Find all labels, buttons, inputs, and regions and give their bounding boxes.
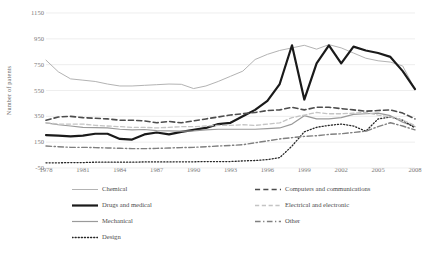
- legend-swatch-icon: [72, 234, 98, 241]
- legend-label: Electrical and electronic: [285, 202, 349, 209]
- legend-item[interactable]: Design: [72, 234, 121, 241]
- legend-swatch-icon: [72, 186, 98, 193]
- legend-item[interactable]: Computers and communications: [255, 186, 370, 193]
- legend-label: Drugs and medical: [102, 202, 152, 209]
- legend-swatch-icon: [72, 218, 98, 225]
- legend-swatch-icon: [255, 218, 281, 225]
- chart-plot-wrapper: Number of patents -501503505507509501150…: [0, 0, 432, 180]
- legend-item[interactable]: Mechanical: [72, 218, 133, 225]
- legend-swatch-icon: [255, 186, 281, 193]
- patents-line-chart: Number of patents -501503505507509501150…: [0, 0, 432, 258]
- legend-swatch-icon: [255, 202, 281, 209]
- legend-item[interactable]: Chemical: [72, 186, 127, 193]
- legend-item[interactable]: Other: [255, 218, 300, 225]
- legend-label: Chemical: [102, 186, 127, 193]
- chart-legend: ChemicalDrugs and medicalMechanicalDesig…: [0, 182, 432, 258]
- series-line: [46, 123, 415, 149]
- legend-swatch-icon: [72, 202, 98, 209]
- legend-label: Mechanical: [102, 218, 133, 225]
- legend-item[interactable]: Electrical and electronic: [255, 202, 349, 209]
- legend-label: Design: [102, 234, 121, 241]
- series-line: [46, 45, 415, 90]
- legend-item[interactable]: Drugs and medical: [72, 202, 152, 209]
- plot-area: [46, 13, 415, 168]
- legend-label: Computers and communications: [285, 186, 370, 193]
- chart-svg: [46, 13, 415, 168]
- series-line: [46, 107, 415, 123]
- legend-label: Other: [285, 218, 300, 225]
